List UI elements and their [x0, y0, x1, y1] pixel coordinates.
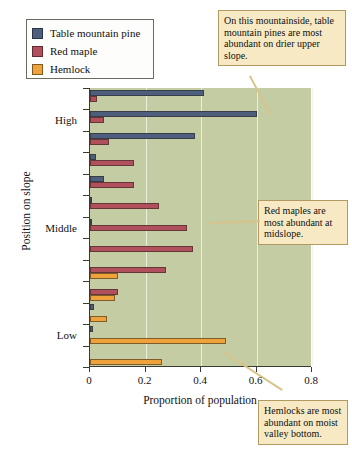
- bar: [90, 96, 97, 102]
- y-axis-title: Position on slope: [20, 151, 32, 271]
- legend-item: Table mountain pine: [32, 24, 148, 42]
- x-tick-label: 0.4: [185, 374, 215, 386]
- y-tick: [83, 238, 89, 239]
- callout-pine-text: On this mountainside, table mountain pin…: [224, 15, 334, 61]
- legend-swatch-icon: [32, 28, 43, 39]
- x-tick: [89, 367, 90, 372]
- y-tick: [83, 88, 89, 89]
- x-tick: [145, 367, 146, 372]
- bar: [90, 225, 187, 231]
- bar: [90, 90, 204, 96]
- bar: [90, 316, 107, 322]
- x-tick-label: 0.2: [130, 374, 160, 386]
- y-tick: [83, 346, 89, 347]
- legend-swatch-icon: [32, 46, 43, 57]
- y-tick: [83, 324, 89, 325]
- legend-label: Hemlock: [50, 64, 90, 75]
- bar: [90, 295, 115, 301]
- legend-label: Red maple: [50, 46, 97, 57]
- bar: [90, 359, 162, 365]
- y-tick: [83, 367, 89, 368]
- y-category-label: Low: [25, 329, 77, 341]
- x-tick: [200, 367, 201, 372]
- callout-pine: On this mountainside, table mountain pin…: [218, 10, 346, 66]
- y-tick: [83, 131, 89, 132]
- bar: [90, 273, 118, 279]
- y-tick: [83, 152, 89, 153]
- callout-hemlock-text: Hemlocks are most abundant on moist vall…: [264, 405, 341, 439]
- x-tick: [311, 367, 312, 372]
- x-gridline: [201, 88, 202, 366]
- legend-label: Table mountain pine: [50, 28, 140, 39]
- bar: [90, 117, 104, 123]
- callout-maple: Red maples are most abundant at midslope…: [258, 200, 348, 245]
- bar: [90, 203, 159, 209]
- y-tick: [83, 109, 89, 110]
- y-tick: [83, 174, 89, 175]
- legend-swatch-icon: [32, 64, 43, 75]
- legend-item: Red maple: [32, 42, 148, 60]
- legend-item: Hemlock: [32, 60, 148, 78]
- chart-legend: Table mountain pineRed mapleHemlock: [26, 19, 154, 79]
- x-tick-label: 0: [74, 374, 104, 386]
- figure: Table mountain pineRed mapleHemlock Prop…: [0, 0, 352, 469]
- bar: [90, 160, 134, 166]
- y-tick: [83, 303, 89, 304]
- y-tick: [83, 217, 89, 218]
- y-category-label: Middle: [25, 222, 77, 234]
- bar: [90, 338, 226, 344]
- x-tick: [256, 367, 257, 372]
- bar: [90, 304, 94, 310]
- bar: [90, 111, 257, 117]
- callout-hemlock: Hemlocks are most abundant on moist vall…: [258, 400, 348, 445]
- y-tick: [83, 195, 89, 196]
- y-tick: [83, 260, 89, 261]
- y-category-label: High: [25, 114, 77, 126]
- bar: [90, 182, 134, 188]
- y-tick: [83, 281, 89, 282]
- bar: [90, 246, 193, 252]
- callout-maple-text: Red maples are most abundant at midslope…: [264, 205, 332, 239]
- x-tick-label: 0.8: [296, 374, 326, 386]
- bar: [90, 326, 93, 332]
- x-tick-label: 0.6: [241, 374, 271, 386]
- bar: [90, 139, 109, 145]
